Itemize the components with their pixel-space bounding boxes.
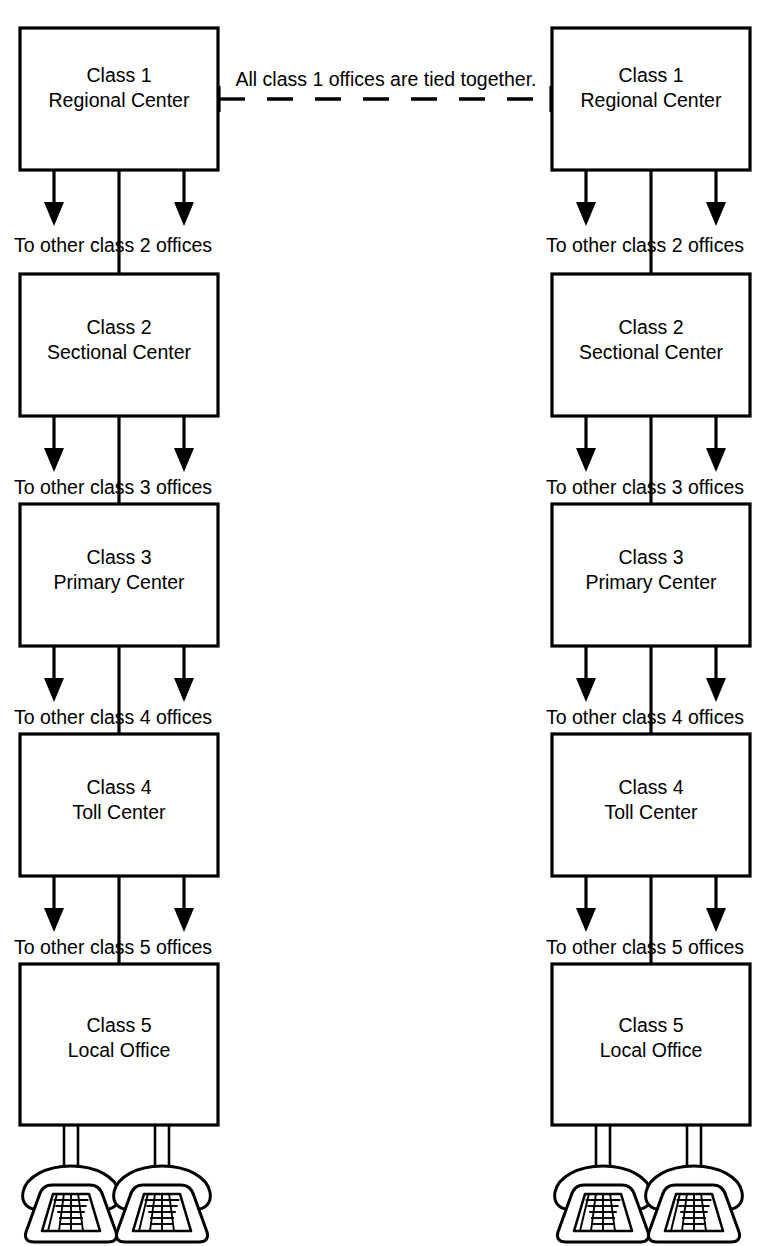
office-box-name-label: Primary Center [53,571,185,593]
arrow-head-right [706,678,726,702]
office-box-name-label: Toll Center [604,801,698,823]
branch-label-right-4: To other class 5 offices [546,936,744,958]
telephone-icon [114,1166,211,1242]
office-box-left-5: Class 5 Local Office [20,964,218,1125]
office-box-class-label: Class 5 [86,1014,151,1036]
office-box-class-label: Class 1 [86,64,151,86]
arrow-head-left [44,448,64,472]
arrow-head-right [706,202,726,226]
arrow-head-right [706,908,726,932]
arrow-head-right [174,448,194,472]
office-box-right-2: Class 2 Sectional Center [552,274,750,416]
office-box-left-1: Class 1 Regional Center [20,28,218,170]
office-box-name-label: Sectional Center [579,341,724,363]
office-box-left-3: Class 3 Primary Center [20,504,218,646]
office-box-right-3: Class 3 Primary Center [552,504,750,646]
connector-group-left-1 [44,170,194,274]
office-box-name-label: Local Office [68,1039,171,1061]
branch-label-left-1: To other class 2 offices [14,234,212,256]
arrow-head-left [44,908,64,932]
telephone-icon [555,1166,652,1242]
office-box-class-label: Class 2 [86,316,151,338]
telephone-icon [23,1166,120,1242]
tie-note-label: All class 1 offices are tied together. [236,68,537,90]
arrow-head-right [706,448,726,472]
arrow-head-left [576,908,596,932]
branch-label-right-2: To other class 3 offices [546,476,744,498]
arrow-head-right [174,202,194,226]
office-box-left-2: Class 2 Sectional Center [20,274,218,416]
office-box-right-4: Class 4 Toll Center [552,734,750,876]
office-box-right-5: Class 5 Local Office [552,964,750,1125]
office-box-name-label: Toll Center [72,801,166,823]
office-box-class-label: Class 5 [618,1014,683,1036]
arrow-head-right [174,908,194,932]
arrow-head-left [576,448,596,472]
office-box-class-label: Class 3 [618,546,683,568]
office-box-class-label: Class 2 [618,316,683,338]
office-box-name-label: Primary Center [585,571,717,593]
branch-label-left-2: To other class 3 offices [14,476,212,498]
office-box-class-label: Class 1 [618,64,683,86]
office-box-left-4: Class 4 Toll Center [20,734,218,876]
arrow-head-left [576,678,596,702]
branch-label-left-3: To other class 4 offices [14,706,212,728]
office-box-class-label: Class 3 [86,546,151,568]
office-box-name-label: Local Office [600,1039,703,1061]
arrow-head-left [576,202,596,226]
office-box-name-label: Regional Center [581,89,722,111]
connector-group-right-1 [576,170,726,274]
network-hierarchy-diagram: Class 1 Regional Center To other class 2… [0,0,772,1246]
office-box-class-label: Class 4 [86,776,151,798]
arrow-head-left [44,202,64,226]
office-box-right-1: Class 1 Regional Center [552,28,750,170]
diagram-canvas: Class 1 Regional Center To other class 2… [0,0,772,1246]
arrow-head-right [174,678,194,702]
arrow-head-left [44,678,64,702]
office-box-name-label: Sectional Center [47,341,192,363]
office-box-class-label: Class 4 [618,776,683,798]
office-box-name-label: Regional Center [49,89,190,111]
branch-label-right-3: To other class 4 offices [546,706,744,728]
branch-label-right-1: To other class 2 offices [546,234,744,256]
branch-label-left-4: To other class 5 offices [14,936,212,958]
telephone-icon [646,1166,743,1242]
